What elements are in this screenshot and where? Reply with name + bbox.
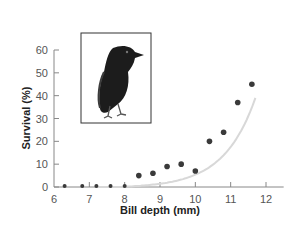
y-axis-title: Survival (%) [20,86,32,149]
y-tick-label: 60 [36,44,48,56]
data-point [164,164,170,170]
y-tick-label: 50 [36,67,48,79]
x-axis-title: Bill depth (mm) [120,204,200,216]
x-tick-label: 6 [51,193,57,205]
x-tick-label: 7 [86,193,92,205]
data-point [63,184,67,188]
data-point [136,173,142,179]
data-point [109,184,113,188]
x-tick-label: 12 [260,193,272,205]
y-tick-label: 20 [36,135,48,147]
data-point [249,81,255,87]
data-point [123,184,127,188]
data-point [207,139,213,145]
axes: 01020304050606789101112 [36,44,284,205]
y-tick-label: 0 [42,181,48,193]
data-point [178,161,184,167]
x-tick-label: 11 [225,193,236,205]
y-tick-label: 10 [36,158,48,170]
y-tick-label: 30 [36,113,48,125]
data-point [221,129,227,135]
data-point [193,168,199,174]
scatter-chart: 01020304050606789101112 Survival (%) Bil… [0,0,302,233]
data-point [94,184,98,188]
data-point [235,100,241,106]
data-point [150,171,156,177]
data-point [80,184,84,188]
finch-inset [81,33,151,123]
y-tick-label: 40 [36,90,48,102]
